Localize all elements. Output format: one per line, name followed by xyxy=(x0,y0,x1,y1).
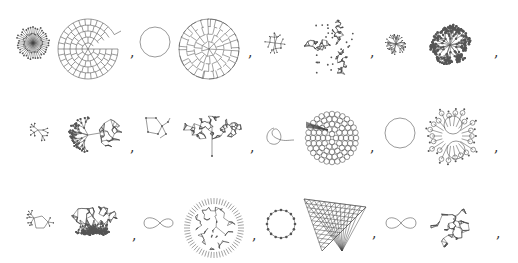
graph-three-arm-dense xyxy=(298,15,360,77)
graph-sparse-tree xyxy=(20,110,56,150)
graph-infinity-curve xyxy=(384,214,418,232)
comma-separator: , xyxy=(248,45,252,59)
graph-dense-tree-fan xyxy=(60,198,128,254)
comma-separator: , xyxy=(370,140,374,154)
graph-circle xyxy=(138,25,172,59)
comma-separator: , xyxy=(496,226,500,240)
graph-branching-cluster xyxy=(418,15,482,75)
graph-spiral-grid xyxy=(55,15,121,81)
graph-honeycomb-disc xyxy=(302,108,358,164)
graph-star-tree xyxy=(378,28,414,60)
graph-dotted-ring xyxy=(264,207,298,241)
graph-loop-curve xyxy=(262,122,296,150)
comma-separator: , xyxy=(130,140,134,154)
comma-separator: , xyxy=(132,228,136,242)
comma-separator: , xyxy=(494,45,498,59)
graph-tree-with-cluster xyxy=(60,105,128,165)
comma-separator: , xyxy=(130,45,134,59)
comma-separator: , xyxy=(372,226,376,240)
graph-star-mesh xyxy=(422,196,486,258)
graph-spiky-mesh xyxy=(182,196,246,260)
graph-small-cycle-tree-2 xyxy=(20,210,56,240)
graph-small-tree xyxy=(258,30,292,56)
graph-triangular-grid xyxy=(302,197,368,253)
comma-separator: , xyxy=(370,45,374,59)
graph-star-burst xyxy=(15,25,51,61)
comma-separator: , xyxy=(252,228,256,242)
graph-circular-mesh xyxy=(176,15,242,81)
graph-small-cycle-tree xyxy=(140,112,176,144)
graph-circle-2 xyxy=(382,115,418,151)
graph-dense-fan xyxy=(180,108,244,160)
graph-figure-eight xyxy=(140,214,176,232)
graph-cactus-disc xyxy=(420,103,482,167)
comma-separator: , xyxy=(250,140,254,154)
comma-separator: , xyxy=(494,140,498,154)
